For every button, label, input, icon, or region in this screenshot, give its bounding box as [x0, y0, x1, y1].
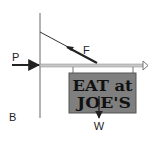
statics-diagram: F P EAT at JOE'S W B — [0, 0, 155, 142]
sign-line-2: JOE'S — [75, 94, 131, 112]
label-w: W — [94, 120, 105, 132]
label-f: F — [83, 44, 90, 56]
sign-line-1: EAT at — [73, 77, 133, 95]
beam-end-arrowhead-icon — [143, 61, 148, 70]
label-b: B — [9, 111, 16, 123]
label-p: P — [12, 51, 19, 63]
sign: EAT at JOE'S — [69, 73, 136, 113]
